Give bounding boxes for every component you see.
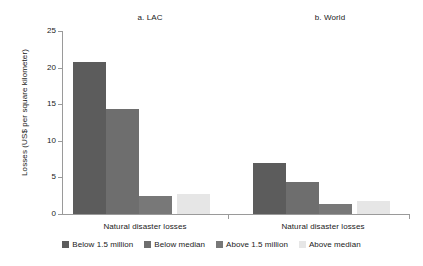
legend-label: Below 1.5 million xyxy=(72,240,133,249)
plot-area xyxy=(0,0,423,214)
legend-swatch-icon xyxy=(62,241,69,248)
bar xyxy=(253,163,286,214)
bar xyxy=(319,204,352,214)
bar xyxy=(73,62,106,214)
legend-item[interactable]: Below median xyxy=(144,240,205,249)
legend-swatch-icon xyxy=(299,241,306,248)
legend-swatch-icon xyxy=(216,241,223,248)
bar xyxy=(139,196,172,214)
legend-label: Above median xyxy=(309,240,361,249)
x-axis-end-tick xyxy=(409,214,410,219)
legend-item[interactable]: Above 1.5 million xyxy=(216,240,288,249)
bar xyxy=(357,201,390,214)
legend-label: Below median xyxy=(154,240,205,249)
legend-item[interactable]: Above median xyxy=(299,240,361,249)
x-axis-label-lac: Natural disaster losses xyxy=(63,222,227,231)
bar xyxy=(177,194,210,214)
x-axis-line xyxy=(62,214,410,215)
legend-item[interactable]: Below 1.5 million xyxy=(62,240,133,249)
legend-swatch-icon xyxy=(144,241,151,248)
legend-label: Above 1.5 million xyxy=(226,240,288,249)
chart-figure: a. LAC b. World Losses (US$ per square k… xyxy=(0,0,423,266)
x-axis-label-world: Natural disaster losses xyxy=(241,222,405,231)
x-axis-separator-tick xyxy=(228,214,229,219)
chart-legend: Below 1.5 millionBelow medianAbove 1.5 m… xyxy=(0,240,423,249)
bar xyxy=(286,182,319,214)
bar xyxy=(106,109,139,214)
